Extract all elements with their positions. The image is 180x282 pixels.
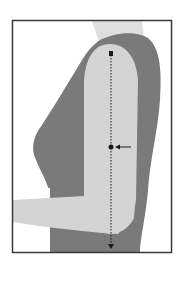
figure-container: Mid-upper arm measurement illustration xyxy=(0,0,180,282)
arm-measurement-illustration xyxy=(0,0,180,282)
top-marker xyxy=(109,51,113,56)
midpoint-dot xyxy=(109,145,114,150)
